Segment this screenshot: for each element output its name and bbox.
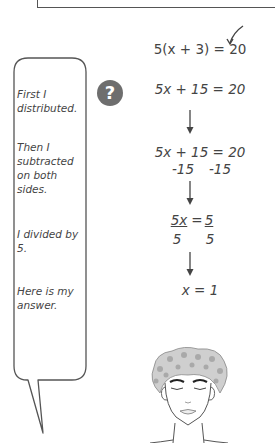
down-arrow-icon [185, 181, 195, 206]
bubble-line-4: Here is my answer. [17, 284, 87, 312]
fraction-numerator-right: 5 [203, 212, 215, 228]
bubble-line-3: I divided by 5. [17, 227, 87, 255]
question-icon[interactable]: ? [97, 80, 123, 106]
down-arrow-icon [185, 110, 195, 135]
fraction-denominator-left: 5 [170, 231, 184, 247]
fraction-denominator-right: 5 [203, 231, 217, 247]
equation-step-3: 5x + 15 = 20 [145, 144, 255, 160]
fraction-numerator-left: 5x [168, 212, 190, 228]
bubble-line-1: First I distributed. [17, 87, 87, 115]
speech-bubble [0, 0, 100, 443]
student-character-illustration [140, 345, 240, 443]
bubble-line-2: Then I subtracted on both sides. [17, 140, 87, 196]
fraction-equals: = [190, 212, 204, 228]
subtract-left: -15 [168, 161, 198, 177]
equation-step-1: 5(x + 3) = 20 [145, 41, 255, 57]
equation-answer: x = 1 [160, 282, 240, 298]
subtract-right: -15 [205, 161, 235, 177]
down-arrow-icon [185, 252, 195, 277]
equation-step-2: 5x + 15 = 20 [145, 81, 255, 97]
